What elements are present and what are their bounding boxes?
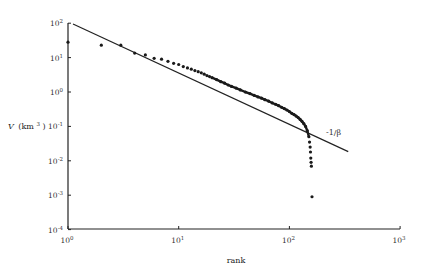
data-point	[172, 62, 175, 65]
data-point	[309, 156, 312, 159]
y-tick-label: 10-2	[48, 156, 63, 166]
data-point	[203, 73, 206, 76]
data-point	[310, 195, 313, 198]
x-tick-label: 102	[282, 235, 295, 245]
y-axis-unit-close: )	[42, 122, 45, 131]
data-point	[308, 140, 311, 143]
data-point	[119, 44, 122, 47]
slope-annotation: -1/β	[326, 128, 341, 137]
y-axis-var: V	[8, 122, 15, 131]
rank-volume-chart: 10210110010-110-210-310-4 100101102103 r…	[0, 0, 428, 276]
y-tick-label: 102	[50, 18, 63, 28]
dense-data-curve	[212, 78, 309, 137]
x-tick-label: 103	[393, 235, 407, 245]
data-point	[153, 57, 156, 60]
data-point	[193, 69, 196, 72]
data-point	[197, 70, 200, 73]
data-point	[309, 150, 312, 153]
data-point	[160, 58, 163, 61]
data-point	[309, 161, 312, 164]
x-axis-title: rank	[227, 256, 246, 265]
data-point	[186, 66, 189, 69]
data-point	[190, 68, 193, 71]
x-tick-label: 100	[60, 235, 74, 245]
y-tick-label: 10-1	[48, 121, 63, 131]
y-tick-label: 100	[50, 87, 64, 97]
y-axis-title: V (km 3 )	[8, 119, 46, 131]
data-point	[166, 60, 169, 63]
x-tick-label: 101	[171, 235, 184, 245]
data-point	[66, 41, 69, 44]
data-point	[133, 52, 136, 55]
y-tick-label: 10-3	[48, 190, 63, 200]
data-point	[177, 63, 180, 66]
y-axis-unit: (km	[18, 122, 34, 131]
data-points	[66, 41, 313, 199]
data-point	[309, 146, 312, 149]
y-tick-label: 101	[50, 53, 63, 63]
y-tick-label: 10-4	[48, 225, 63, 235]
data-point	[144, 53, 147, 56]
y-axis-unit-exp: 3	[36, 121, 40, 127]
axes	[68, 23, 400, 229]
data-point	[310, 165, 313, 168]
data-point	[182, 65, 185, 68]
data-point	[200, 71, 203, 74]
data-point	[100, 44, 103, 47]
